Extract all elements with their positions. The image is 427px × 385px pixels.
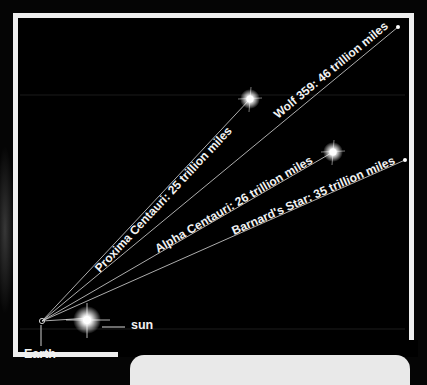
earth-label: Earth xyxy=(24,347,56,361)
star-wolf-359-icon xyxy=(396,25,400,29)
label-wolf-359: Wolf 359: 46 trillion miles xyxy=(271,19,391,122)
star-alpha-centauri-icon xyxy=(321,140,345,165)
star-barnards-star-icon xyxy=(403,158,407,162)
sun-icon xyxy=(66,303,110,338)
sun-label: sun xyxy=(131,318,153,332)
